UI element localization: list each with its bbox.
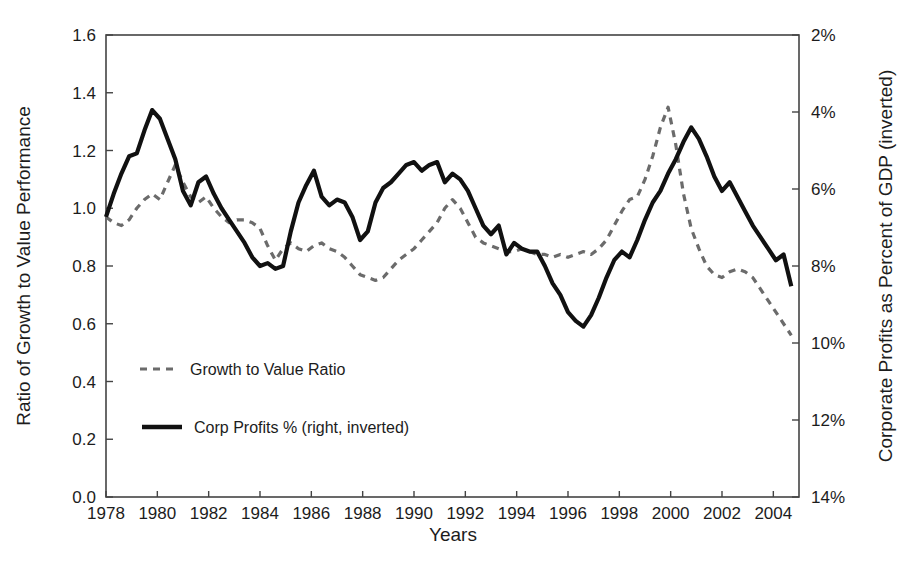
x-tick-label: 1986	[292, 504, 330, 523]
x-tick-label: 1994	[498, 504, 536, 523]
y-tick-label: 0.6	[72, 315, 96, 334]
y-axis-right-ticks: 2%4%6%8%10%12%14%	[792, 26, 845, 507]
x-tick-label: 1992	[446, 504, 484, 523]
series-line-2	[106, 110, 791, 327]
y-tick-label: 1.2	[72, 142, 96, 161]
chart-legend: Growth to Value RatioCorp Profits % (rig…	[140, 361, 409, 436]
y2-tick-label: 8%	[811, 257, 836, 276]
legend-label-1: Growth to Value Ratio	[190, 361, 345, 378]
line-chart: 1978198019821984198619881990199219941996…	[0, 0, 921, 570]
y-axis-right-title: Corporate Profits as Percent of GDP (inv…	[875, 70, 896, 462]
y-tick-label: 0.0	[72, 488, 96, 507]
y2-tick-label: 14%	[811, 488, 845, 507]
x-tick-label: 2004	[754, 504, 792, 523]
y2-tick-label: 2%	[811, 26, 836, 45]
series-layer	[106, 107, 791, 335]
x-tick-label: 1984	[241, 504, 279, 523]
x-tick-label: 2000	[652, 504, 690, 523]
y-tick-label: 0.2	[72, 430, 96, 449]
y2-tick-label: 12%	[811, 411, 845, 430]
x-tick-label: 2002	[703, 504, 741, 523]
x-tick-label: 1998	[600, 504, 638, 523]
legend-label-2: Corp Profits % (right, inverted)	[194, 419, 409, 436]
x-tick-label: 1982	[190, 504, 228, 523]
x-tick-label: 1980	[138, 504, 176, 523]
series-line-1	[106, 107, 791, 335]
y-tick-label: 1.0	[72, 199, 96, 218]
x-tick-label: 1990	[395, 504, 433, 523]
y2-tick-label: 10%	[811, 334, 845, 353]
y-axis-left-title: Ratio of Growth to Value Performance	[13, 106, 34, 426]
y2-tick-label: 4%	[811, 103, 836, 122]
y2-tick-label: 6%	[811, 180, 836, 199]
x-tick-label: 1988	[344, 504, 382, 523]
y-tick-label: 1.4	[72, 84, 96, 103]
y-tick-label: 1.6	[72, 26, 96, 45]
x-tick-label: 1996	[549, 504, 587, 523]
chart-figure: 1978198019821984198619881990199219941996…	[0, 0, 921, 570]
y-axis-left-ticks: 0.00.20.40.60.81.01.21.41.6	[72, 26, 113, 507]
x-axis-title: Years	[429, 524, 477, 545]
y-tick-label: 0.4	[72, 373, 96, 392]
x-axis-ticks: 1978198019821984198619881990199219941996…	[87, 491, 792, 523]
y-tick-label: 0.8	[72, 257, 96, 276]
